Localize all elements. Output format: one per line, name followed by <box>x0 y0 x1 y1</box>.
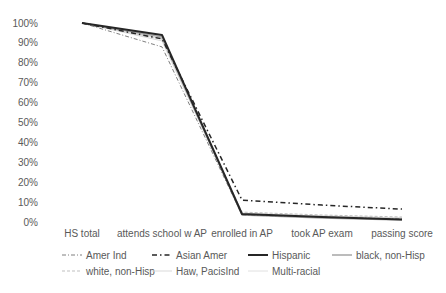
y-tick-label: 100% <box>12 18 38 29</box>
series-line-asian-amer <box>82 23 402 209</box>
x-tick-label: enrolled in AP <box>211 228 273 239</box>
series-layer <box>82 23 402 220</box>
y-tick-label: 30% <box>18 157 38 168</box>
legend-label: white, non-Hisp <box>85 266 155 277</box>
y-tick-label: 40% <box>18 137 38 148</box>
y-tick-label: 70% <box>18 77 38 88</box>
y-tick-label: 80% <box>18 57 38 68</box>
y-tick-label: 60% <box>18 97 38 108</box>
y-tick-label: 10% <box>18 197 38 208</box>
legend-item: Hispanic <box>248 250 310 261</box>
x-axis: HS totalattends school w APenrolled in A… <box>64 228 433 239</box>
legend-label: Amer Ind <box>86 250 127 261</box>
series-line-haw-pacisind <box>82 23 402 218</box>
legend-label: Asian Amer <box>176 250 228 261</box>
legend-item: Haw, PacisInd <box>152 266 239 277</box>
legend-label: Haw, PacisInd <box>176 266 239 277</box>
legend-label: Hispanic <box>272 250 310 261</box>
x-tick-label: took AP exam <box>291 228 353 239</box>
legend-label: black, non-Hisp <box>356 250 425 261</box>
x-tick-label: HS total <box>64 228 100 239</box>
series-line-black-non-hisp <box>82 23 402 220</box>
legend: Amer IndAsian AmerHispanicblack, non-His… <box>62 250 425 277</box>
x-tick-label: passing score <box>371 228 433 239</box>
y-tick-label: 50% <box>18 117 38 128</box>
legend-label: Multi-racial <box>272 266 320 277</box>
series-line-white-non-hisp <box>82 23 402 217</box>
legend-item: white, non-Hisp <box>62 266 155 277</box>
y-axis: 0%10%20%30%40%50%60%70%80%90%100% <box>12 18 38 228</box>
line-chart: 0%10%20%30%40%50%60%70%80%90%100% HS tot… <box>0 0 446 293</box>
series-line-amer-ind <box>82 23 402 219</box>
x-tick-label: attends school w AP <box>117 228 207 239</box>
series-line-hispanic <box>82 23 402 220</box>
legend-item: Multi-racial <box>248 266 320 277</box>
legend-item: black, non-Hisp <box>332 250 425 261</box>
y-tick-label: 20% <box>18 177 38 188</box>
y-tick-label: 90% <box>18 37 38 48</box>
chart-canvas: 0%10%20%30%40%50%60%70%80%90%100% HS tot… <box>0 0 446 293</box>
legend-item: Asian Amer <box>152 250 228 261</box>
y-tick-label: 0% <box>24 217 39 228</box>
series-line-multi-racial <box>82 23 402 218</box>
legend-item: Amer Ind <box>62 250 127 261</box>
